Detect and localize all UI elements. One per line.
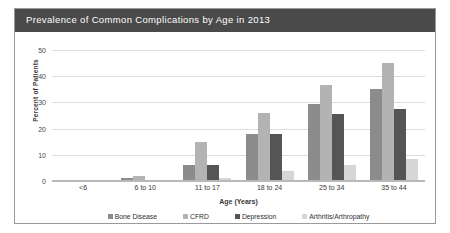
y-axis-tick-40: 40 — [29, 73, 46, 80]
legend-item-arthritis-arthropathy: Arthritis/Arthropathy — [302, 213, 369, 220]
bar-depression-5 — [394, 109, 406, 181]
x-axis-tick-4: 25 to 34 — [301, 184, 363, 191]
bar-cfrd-4 — [320, 85, 332, 181]
x-axis-tick-0: <6 — [52, 184, 114, 191]
bar-arthritis-arthropathy-4 — [344, 165, 356, 181]
bar-bone-disease-2 — [183, 165, 195, 181]
legend-label: Bone Disease — [115, 213, 157, 220]
legend-item-cfrd: CFRD — [183, 213, 209, 220]
bar-group-25-to-34 — [301, 50, 363, 181]
x-axis-line — [52, 180, 425, 181]
plot-wrapper: Percent of Patients 01020304050 <66 to 1… — [15, 32, 435, 225]
legend-swatch-icon — [235, 214, 240, 219]
x-axis-tick-2: 11 to 17 — [176, 184, 238, 191]
chart-legend: Bone DiseaseCFRDDepressionArthritis/Arth… — [52, 213, 425, 220]
bar-group-6-to-10 — [114, 50, 176, 181]
chart-title-bar: Prevalence of Common Complications by Ag… — [15, 9, 435, 32]
bar-depression-2 — [207, 165, 219, 181]
bar-cfrd-5 — [382, 63, 394, 181]
bar-group-18-to-24 — [239, 50, 301, 181]
bar-depression-3 — [270, 134, 282, 181]
plot-area — [52, 50, 425, 181]
bar-depression-4 — [332, 114, 344, 181]
bar-bone-disease-3 — [246, 134, 258, 181]
x-axis-tick-1: 6 to 10 — [114, 184, 176, 191]
x-axis-ticks: <66 to 1011 to 1718 to 2425 to 3435 to 4… — [52, 184, 425, 191]
bar-cfrd-3 — [258, 113, 270, 181]
y-axis-tick-30: 30 — [29, 99, 46, 106]
x-axis-tick-5: 35 to 44 — [363, 184, 425, 191]
gridline-0 — [52, 181, 425, 182]
bar-group--6 — [52, 50, 114, 181]
legend-swatch-icon — [183, 214, 188, 219]
legend-item-depression: Depression — [235, 213, 276, 220]
legend-swatch-icon — [302, 214, 307, 219]
bar-bone-disease-4 — [308, 104, 320, 181]
bar-group-35-to-44 — [363, 50, 425, 181]
y-axis-tick-10: 10 — [29, 151, 46, 158]
y-axis-title: Percent of Patients — [32, 46, 39, 136]
bar-group-11-to-17 — [176, 50, 238, 181]
legend-item-bone-disease: Bone Disease — [108, 213, 157, 220]
bar-arthritis-arthropathy-5 — [406, 159, 418, 181]
y-axis-tick-20: 20 — [29, 125, 46, 132]
bar-groups — [52, 50, 425, 181]
legend-label: CFRD — [190, 213, 209, 220]
x-axis-tick-3: 18 to 24 — [239, 184, 301, 191]
legend-swatch-icon — [108, 214, 113, 219]
chart-figure: Prevalence of Common Complications by Ag… — [14, 8, 436, 224]
bar-bone-disease-5 — [370, 89, 382, 181]
chart-title: Prevalence of Common Complications by Ag… — [26, 14, 270, 25]
y-axis-tick-0: 0 — [29, 178, 46, 185]
legend-label: Depression — [242, 213, 276, 220]
legend-label: Arthritis/Arthropathy — [309, 213, 369, 220]
bar-cfrd-2 — [195, 142, 207, 181]
x-axis-title: Age (Years) — [52, 198, 425, 205]
y-axis-tick-50: 50 — [29, 47, 46, 54]
